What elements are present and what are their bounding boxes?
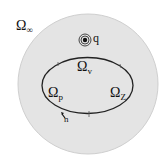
point-charge-icon — [79, 34, 91, 46]
point-charge-label: q — [93, 32, 99, 44]
region-label-top: Ωv — [77, 58, 92, 76]
region-label-right: ΩZ — [110, 84, 126, 102]
region-label-outer: Ω∞ — [16, 17, 33, 35]
region-label-left: Ωp — [48, 84, 63, 102]
diagram-canvas: Ω∞ q Ωv Ωp ΩZ n — [0, 0, 164, 160]
normal-label: n — [64, 115, 69, 124]
